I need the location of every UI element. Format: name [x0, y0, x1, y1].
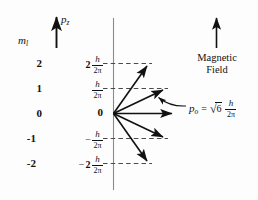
axis-tick-h: h 2π	[60, 80, 103, 100]
magnetic-field-caption: Magnetic Field	[182, 52, 252, 76]
axis-tick-zero: 0	[60, 107, 103, 118]
ml-value-2: 2	[20, 58, 42, 69]
ml-column-header: ml	[18, 35, 28, 48]
axis-tick-minus-h: − h 2π	[60, 130, 103, 150]
magnetic-field-line1: Magnetic	[182, 52, 252, 64]
leader-line-momentum	[159, 98, 187, 107]
magnetic-field-line2: Field	[182, 64, 252, 76]
ml-value-1: 1	[20, 83, 42, 94]
ml-value-minus-1: -1	[14, 133, 36, 144]
pz-axis-label: pz	[61, 14, 69, 27]
ml-value-minus-2: -2	[14, 158, 36, 169]
axis-tick-minus-2h: − 2 h 2π	[54, 155, 103, 175]
ml-value-0: 0	[20, 108, 42, 119]
momentum-magnitude-label: po = √ 6 h 2π	[189, 99, 236, 119]
figure-canvas: pz ml 2 1 0 -1 -2 2 h 2π h 2π 0 − h 2π	[0, 0, 258, 200]
axis-tick-2h: 2 h 2π	[60, 55, 103, 75]
